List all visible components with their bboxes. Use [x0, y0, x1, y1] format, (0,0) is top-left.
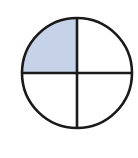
fraction-circle-figure: [0, 0, 138, 158]
fraction-circle-diagram: [0, 0, 138, 158]
